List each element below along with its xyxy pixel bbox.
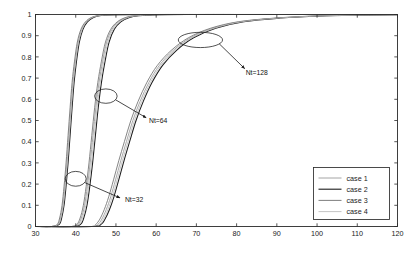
chart-figure: 3040506070809010011012000.10.20.30.40.50… <box>0 0 414 257</box>
y-axis-label-0p5: 0.5 <box>22 116 32 125</box>
y-axis-label-1: 1 <box>28 10 32 19</box>
legend-label-3: case 3 <box>347 196 368 205</box>
x-axis-label-100: 100 <box>311 229 323 238</box>
annotation-label-nt-32: Nt=32 <box>125 196 144 203</box>
chart-canvas: 3040506070809010011012000.10.20.30.40.50… <box>0 0 414 257</box>
chart-legend: case 1case 2case 3case 4 <box>314 168 390 220</box>
x-axis-label-110: 110 <box>352 229 363 238</box>
legend-label-1: case 1 <box>347 174 368 183</box>
x-axis-label-50: 50 <box>112 229 120 238</box>
y-axis-label-0p6: 0.6 <box>22 95 32 104</box>
x-axis-label-80: 80 <box>233 229 241 238</box>
y-axis-label-0p1: 0.1 <box>22 201 32 210</box>
y-axis-label-0p3: 0.3 <box>22 159 32 168</box>
legend-label-2: case 2 <box>347 185 368 194</box>
x-axis-label-70: 70 <box>192 229 200 238</box>
x-axis-label-30: 30 <box>32 229 40 238</box>
x-axis-label-120: 120 <box>392 229 404 238</box>
y-axis-label-0p7: 0.7 <box>22 74 32 83</box>
annotation-label-nt-64: Nt=64 <box>149 117 168 124</box>
x-axis-label-60: 60 <box>152 229 160 238</box>
y-axis-label-0p9: 0.9 <box>22 31 32 40</box>
y-axis-label-0p8: 0.8 <box>22 53 32 62</box>
x-axis-label-40: 40 <box>72 229 80 238</box>
annotation-label-nt-128: Nt=128 <box>246 69 268 76</box>
legend-label-4: case 4 <box>347 207 368 216</box>
y-axis-label-0p2: 0.2 <box>22 180 32 189</box>
y-axis-label-0p4: 0.4 <box>22 137 32 146</box>
x-axis-label-90: 90 <box>273 229 281 238</box>
y-axis-label-0: 0 <box>28 222 32 231</box>
